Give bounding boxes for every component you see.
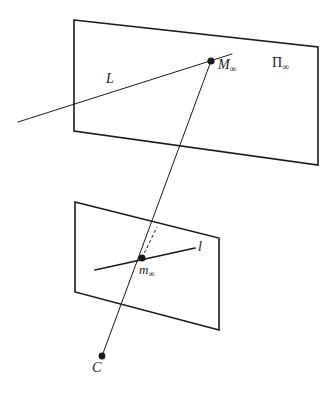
label-m-infinity: m∞ [139,263,155,279]
label-plane-at-infinity: Π∞ [272,56,289,73]
label-l-base: l [198,239,202,254]
label-Pi-subscript: ∞ [282,62,289,72]
label-image-line-l: l [198,240,202,254]
label-M-base: M [218,57,230,72]
label-line-L: L [106,72,114,86]
line-L [18,54,232,122]
point-M-infinity [207,57,214,64]
label-L-base: L [106,71,114,86]
label-m-base: m [139,262,148,277]
geometry-figure: M∞ Π∞ L l m∞ C [0,0,331,393]
label-m-subscript: ∞ [148,269,154,279]
label-M-subscript: ∞ [230,64,237,74]
label-M-infinity: M∞ [218,58,236,75]
point-C [99,353,106,360]
label-C: C [92,361,101,375]
projection-ray [102,61,211,356]
point-m-infinity [138,254,145,261]
label-C-base: C [92,360,101,375]
label-Pi-base: Π [272,55,282,70]
